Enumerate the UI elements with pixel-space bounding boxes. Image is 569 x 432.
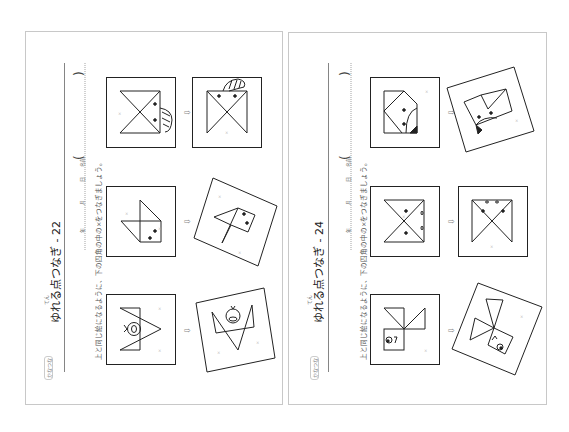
year-label: 年 [344,228,351,233]
month-label: 月 [78,200,85,205]
svg-text:×: × [238,250,241,255]
page-24-title-ruby: てん [305,295,312,305]
name-field-open-paren: ( [72,155,86,160]
page-22-instruction: 上と同じ絵になるように、下の四角の中の×をつなぎましょう。 [93,159,103,360]
logo-icon: かなつな [44,356,53,380]
arrow-icon: ⇨ [184,108,191,117]
logo-icon: かなつな [310,356,319,380]
svg-text:×: × [217,350,220,355]
svg-text:×: × [218,194,221,199]
svg-text:×: × [256,340,259,345]
name-field-open-paren: ( [338,155,352,160]
day-label: 日 [344,177,351,182]
arrow-icon: ⇨ [184,217,191,226]
arrow-icon: ⇨ [448,326,455,335]
page-24-instruction: 上と同じ絵になるように、下の四角の中の×をつなぎましょう。 [358,159,368,360]
svg-text:×: × [402,214,405,219]
svg-text:×: × [158,306,161,311]
page-22-title-ruby: てん [42,295,49,305]
svg-text:×: × [125,211,128,216]
svg-text:×: × [158,226,161,231]
arrow-icon: ⇨ [448,217,455,226]
name-field-close-paren: ) [338,71,352,76]
worksheet-drawing: ⇨ ⇨ [0,0,569,432]
svg-text:×: × [424,348,427,353]
svg-text:×: × [225,130,228,135]
arrow-icon: ⇨ [184,326,191,335]
page-22-title: ゆれる点つなぎ - 22 [47,221,63,323]
year-label: 年 [78,228,85,233]
svg-text:×: × [520,314,523,319]
svg-text:×: × [158,348,161,353]
svg-text:×: × [515,118,518,123]
svg-text:×: × [118,111,121,116]
day-label: 日 [78,177,85,182]
page-24-title: ゆれる点つなぎ - 24 [310,221,326,323]
svg-text:×: × [490,244,493,249]
month-label: 月 [344,200,351,205]
name-field-close-paren: ) [72,71,86,76]
svg-text:×: × [425,89,428,94]
